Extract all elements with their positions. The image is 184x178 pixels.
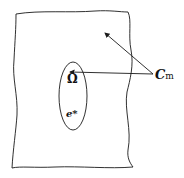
cm-label: Cm (155, 67, 174, 82)
arrow-to-outer-region (105, 33, 153, 74)
cm-main: C (155, 67, 165, 82)
outer-region-boundary (12, 11, 133, 168)
cm-subscript: m (165, 71, 174, 81)
element-label: e* (66, 108, 78, 119)
diagram-svg (0, 0, 184, 178)
diagram-canvas: Ω e* Cm (0, 0, 184, 178)
omega-label: Ω (67, 72, 78, 86)
arrow-to-inner-region (70, 72, 153, 74)
